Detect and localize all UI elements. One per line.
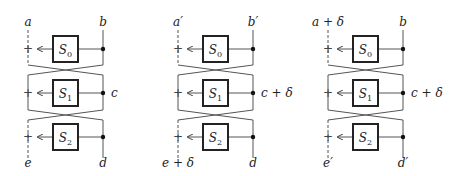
label-bottom-right: d xyxy=(99,156,107,170)
label-bottom-left: e′ xyxy=(323,156,333,170)
xor-plus-2: + xyxy=(173,130,183,144)
xor-plus-1: + xyxy=(173,86,183,100)
xor-plus-0: + xyxy=(323,42,333,56)
xor-plus-2: + xyxy=(323,130,333,144)
xor-plus-2: + xyxy=(23,130,33,144)
xor-plus-0: + xyxy=(173,42,183,56)
panel-3: + + + S0 S1 S2 a + δ b c + δ e′ d′ xyxy=(312,15,443,170)
label-top-left: a′ xyxy=(173,15,183,29)
label-bottom-left: e + δ xyxy=(162,156,194,170)
xor-plus-0: + xyxy=(23,42,33,56)
diagram-canvas: + + + S0 S1 S2 a b c e d + + + S0 S1 S2 … xyxy=(0,0,460,176)
label-bottom-right: d′ xyxy=(398,156,409,170)
label-bottom-left: e xyxy=(24,156,31,170)
label-top-right: b xyxy=(99,15,107,29)
label-top-left: a xyxy=(24,15,31,29)
label-top-left: a + δ xyxy=(312,15,344,29)
label-top-right: b′ xyxy=(248,15,259,29)
label-middle-right: c + δ xyxy=(411,86,443,100)
label-bottom-right: d xyxy=(249,156,257,170)
panel-1: + + + S0 S1 S2 a b c e d xyxy=(23,15,118,170)
label-middle-right: c + δ xyxy=(261,86,293,100)
xor-plus-1: + xyxy=(23,86,33,100)
panel-2: + + + S0 S1 S2 a′ b′ c + δ e + δ d xyxy=(162,15,293,170)
label-top-right: b xyxy=(399,15,407,29)
xor-plus-1: + xyxy=(323,86,333,100)
label-middle-right: c xyxy=(111,86,118,100)
